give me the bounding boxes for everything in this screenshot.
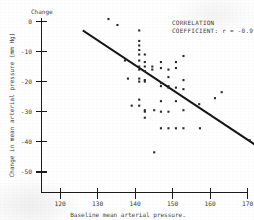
scatter-point [138, 40, 140, 42]
y-axis-tick-labels: 0 -10 -20 -30 -40 -50 [21, 18, 32, 176]
scatter-point [124, 59, 126, 61]
scatter-point [116, 24, 118, 26]
scatter-point [167, 127, 169, 129]
x-axis-title: Baseline mean arterial pressure. [70, 211, 186, 219]
scatter-point [160, 67, 162, 69]
scatter-point [138, 69, 140, 71]
scatter-point [167, 87, 169, 89]
scatter-point [160, 82, 162, 84]
chart-canvas: Change CORRELATION COEFFICIENT: r = -0.9… [0, 0, 254, 220]
plot-title: Change [31, 8, 53, 16]
scatter-point [160, 127, 162, 129]
x-tick-label: 120 [55, 200, 66, 207]
y-tick-label: -30 [21, 108, 32, 115]
scatter-point [175, 100, 177, 102]
scatter-point [249, 139, 251, 141]
scatter-point [182, 55, 184, 57]
scatter-point [160, 111, 162, 113]
x-tick-label: 170 [242, 200, 253, 207]
scatter-point [138, 59, 140, 61]
y-tick-label: -40 [21, 138, 32, 145]
scatter-point [160, 85, 162, 87]
scatter-point [151, 69, 153, 71]
scatter-point [175, 87, 177, 89]
scatter-point [175, 127, 177, 129]
x-tick-label: 150 [167, 200, 178, 207]
scatter-point [175, 67, 177, 69]
y-axis-title: Change in mean arterial pressure (mm Hg) [8, 33, 16, 178]
scatter-point [144, 70, 146, 72]
scatter-point [199, 127, 201, 129]
scatter-point [138, 53, 140, 55]
scatter-point [151, 66, 153, 68]
scatter-point [182, 79, 184, 81]
scatter-point [144, 81, 146, 83]
scatter-point [131, 105, 133, 107]
scatter-point [144, 111, 146, 113]
scatter-plot-figure: Change CORRELATION COEFFICIENT: r = -0.9… [0, 0, 254, 220]
scatter-point [107, 18, 109, 20]
scatter-point [167, 111, 169, 113]
x-tick-label: 140 [130, 200, 141, 207]
scatter-point [160, 100, 162, 102]
y-tick-label: 0 [28, 18, 32, 25]
scatter-point [182, 109, 184, 111]
scatter-point [138, 29, 140, 31]
scatter-point [167, 69, 169, 71]
scatter-point [153, 109, 155, 111]
scatter-point [167, 76, 169, 78]
scatter-point [175, 61, 177, 63]
y-tick-label: -50 [21, 168, 32, 175]
x-tick-label: 160 [205, 200, 216, 207]
scatter-point [138, 44, 140, 46]
scatter-point [198, 103, 200, 105]
scatter-point [144, 117, 146, 119]
scatter-point [138, 99, 140, 101]
scatter-point [221, 91, 223, 93]
scatter-point [138, 81, 140, 83]
scatter-point [182, 127, 184, 129]
scatter-point [138, 66, 140, 68]
regression-line [84, 31, 254, 160]
scatter-point [153, 151, 155, 153]
scatter-point [144, 61, 146, 63]
scatter-point [138, 78, 140, 80]
scatter-point [138, 105, 140, 107]
y-tick-label: -10 [21, 48, 32, 55]
correlation-label-line2: COEFFICIENT: r = -0.916 [172, 27, 254, 34]
scatter-point [127, 78, 129, 80]
y-tick-label: -20 [21, 78, 32, 85]
scatter-point [160, 61, 162, 63]
scatter-point [144, 66, 146, 68]
scatter-point [144, 53, 146, 55]
x-axis-tick-labels: 120 130 140 150 160 170 [55, 200, 254, 207]
scatter-point [138, 49, 140, 51]
scatter-points-layer [107, 18, 254, 153]
x-tick-label: 130 [92, 200, 103, 207]
scatter-point [182, 88, 184, 90]
correlation-label-line1: CORRELATION [172, 19, 215, 26]
scatter-point [214, 97, 216, 99]
